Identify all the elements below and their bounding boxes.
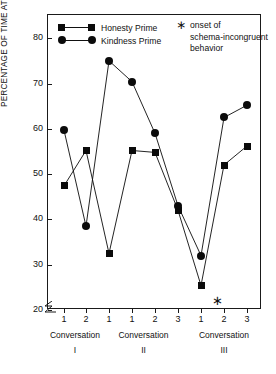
data-point-square — [106, 250, 113, 257]
plot-area: PERCENTAGE OF TIME ATTENDING TO PRIMED A… — [47, 14, 261, 309]
onset-note-text: onset of schema-incongruent behavior — [190, 20, 268, 55]
legend-key-circle — [58, 36, 96, 46]
y-axis-title: PERCENTAGE OF TIME ATTENDING TO PRIMED A… — [0, 0, 9, 107]
data-point-square — [152, 149, 159, 156]
x-tick-mark — [132, 309, 133, 313]
x-tick-mark — [109, 309, 110, 313]
data-point-square — [83, 147, 90, 154]
y-tick-label: 40 — [19, 214, 43, 223]
x-tick-mark — [201, 309, 202, 313]
y-tick-label: 50 — [19, 169, 43, 178]
y-tick-label: 60 — [19, 124, 43, 133]
x-tick-label: 2 — [77, 314, 95, 324]
x-tick-mark — [178, 309, 179, 313]
data-point-square — [221, 162, 228, 169]
legend-item-kindness-prime: Kindness Prime — [58, 34, 161, 47]
data-point-square — [244, 143, 251, 150]
x-tick-mark — [247, 309, 248, 313]
onset-note-line: onset of — [190, 20, 268, 32]
x-group-numeral: III — [179, 345, 269, 356]
onset-note-line: behavior — [190, 43, 268, 55]
onset-note: ∗ onset of schema-incongruent behavior — [176, 20, 268, 55]
x-tick-label: 3 — [169, 314, 187, 324]
x-tick-mark — [224, 309, 225, 313]
x-tick-label: 1 — [192, 314, 210, 324]
legend-key-square — [58, 23, 96, 33]
legend-label: Honesty Prime — [101, 22, 157, 34]
data-point-square — [61, 182, 68, 189]
data-point-circle — [105, 57, 113, 65]
x-group-label: Conversation — [179, 330, 269, 341]
x-tick-label: 1 — [55, 314, 73, 324]
data-point-square — [129, 147, 136, 154]
x-tick-mark — [155, 309, 156, 313]
chart-figure: PERCENTAGE OF TIME ATTENDING TO PRIMED A… — [0, 0, 276, 374]
x-tick-mark — [64, 309, 65, 313]
x-tick-label: 2 — [215, 314, 233, 324]
data-point-square — [198, 282, 205, 289]
onset-note-line: schema-incongruent — [190, 32, 268, 44]
series-line — [64, 61, 247, 256]
y-tick-label: 80 — [19, 33, 43, 42]
x-tick-label: 3 — [238, 314, 256, 324]
legend: Honesty Prime Kindness Prime — [58, 21, 161, 47]
asterisk-icon: ∗ — [176, 20, 186, 55]
x-group-numeral: II — [99, 345, 189, 356]
data-point-circle — [128, 78, 136, 86]
x-tick-label: 1 — [123, 314, 141, 324]
legend-label: Kindness Prime — [101, 35, 161, 47]
series-lines — [48, 15, 260, 308]
legend-item-honesty-prime: Honesty Prime — [58, 21, 161, 34]
y-tick-label: 30 — [19, 260, 43, 269]
y-tick-label: 20 — [19, 305, 43, 314]
x-tick-label: 2 — [146, 314, 164, 324]
data-point-circle — [174, 202, 182, 210]
data-point-circle — [197, 252, 205, 260]
x-tick-mark — [86, 309, 87, 313]
y-tick-label: 70 — [19, 79, 43, 88]
x-group-label: Conversation — [99, 330, 189, 341]
x-tick-label: 1 — [100, 314, 118, 324]
